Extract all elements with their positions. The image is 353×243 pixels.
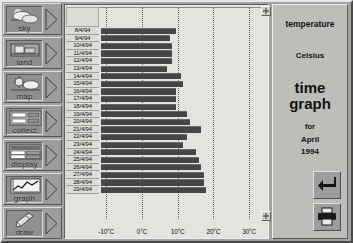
bar-row: [99, 164, 267, 172]
resize-handle-bottom-right[interactable]: [261, 211, 271, 221]
bar-row: [99, 103, 267, 111]
triangle-right-icon[interactable]: [45, 8, 58, 31]
date-label: 27/4/94: [66, 171, 99, 179]
date-label: 9/4/94: [66, 35, 99, 43]
date-label: 10/4/94: [66, 42, 99, 50]
sidebar-item-label: draw: [6, 227, 43, 238]
date-label: 21/4/94: [66, 126, 99, 134]
bar: [101, 81, 183, 87]
bar: [101, 104, 176, 110]
bar: [101, 187, 206, 193]
date-label: 11/4/94: [66, 50, 99, 58]
sidebar-item-label: graph: [6, 193, 43, 204]
date-label: 22/4/94: [66, 133, 99, 141]
chart-panel: 8/4/949/4/9410/4/9411/4/9412/4/9413/4/94…: [64, 4, 269, 239]
sidebar-item-map[interactable]: map: [3, 71, 62, 103]
plot-top-rule: [99, 7, 267, 8]
bar-column: [99, 27, 267, 194]
date-label: 8/4/94: [66, 27, 99, 35]
bar-row: [99, 126, 267, 134]
bar: [101, 58, 172, 64]
bar: [101, 126, 201, 132]
printer-icon[interactable]: [313, 203, 341, 231]
bar: [101, 164, 201, 170]
title-line-2: graph: [273, 96, 347, 112]
bar-row: [99, 111, 267, 119]
bar: [101, 96, 176, 102]
bar-row: [99, 141, 267, 149]
enter-arrow-icon[interactable]: [313, 171, 341, 199]
info-panel: temperature Celsius time graph for April…: [272, 4, 348, 239]
bar: [101, 111, 187, 117]
bar-row: [99, 50, 267, 58]
date-label: 29/4/94: [66, 186, 99, 194]
bar: [101, 179, 205, 185]
month-label: April: [273, 135, 347, 144]
for-label: for: [273, 122, 347, 131]
sidebar-item-sky[interactable]: sky: [3, 3, 62, 35]
sidebar-item-label: display: [6, 159, 43, 170]
bar-row: [99, 133, 267, 141]
date-label: 23/4/94: [66, 141, 99, 149]
sidebar-item-draw[interactable]: draw: [3, 207, 62, 239]
x-axis-tick-label: -10°C: [98, 228, 114, 235]
date-label: 18/4/94: [66, 103, 99, 111]
bar-row: [99, 118, 267, 126]
bar-row: [99, 65, 267, 73]
bar-row: [99, 73, 267, 81]
date-label: 13/4/94: [66, 65, 99, 73]
bar: [101, 66, 167, 72]
bar-row: [99, 42, 267, 50]
app-window: sky land: [0, 0, 353, 243]
date-label: 14/4/94: [66, 73, 99, 81]
bar: [101, 28, 176, 34]
x-axis-tick-label: 30°C: [242, 228, 256, 235]
triangle-right-icon[interactable]: [45, 76, 58, 99]
bar-row: [99, 149, 267, 157]
sidebar-item-label: land: [6, 57, 43, 68]
triangle-right-icon[interactable]: [45, 42, 58, 65]
triangle-right-icon[interactable]: [45, 110, 58, 133]
triangle-right-icon[interactable]: [45, 212, 58, 235]
date-label: 28/4/94: [66, 179, 99, 187]
bar: [101, 157, 199, 163]
date-label: 15/4/94: [66, 80, 99, 88]
bar: [101, 172, 205, 178]
measurement-label: temperature: [273, 19, 347, 29]
date-label: 20/4/94: [66, 118, 99, 126]
date-label: 26/4/94: [66, 164, 99, 172]
left-toolbar: sky land: [3, 3, 62, 240]
date-label: 16/4/94: [66, 88, 99, 96]
sidebar-item-graph[interactable]: graph: [3, 173, 62, 205]
bar-row: [99, 35, 267, 43]
sidebar-item-label: collect: [6, 125, 43, 136]
bar: [101, 119, 190, 125]
triangle-right-icon[interactable]: [45, 178, 58, 201]
x-axis-tick-label: 10°C: [171, 228, 185, 235]
bar: [101, 73, 181, 79]
bar-row: [99, 171, 267, 179]
date-label: 19/4/94: [66, 111, 99, 119]
x-axis-tick-label: 0°C: [137, 228, 147, 235]
date-label: 25/4/94: [66, 156, 99, 164]
bar: [101, 142, 183, 148]
sidebar-item-collect[interactable]: collect: [3, 105, 62, 137]
date-label-column: 8/4/949/4/9410/4/9411/4/9412/4/9413/4/94…: [66, 27, 99, 194]
sidebar-item-label: map: [6, 91, 43, 102]
sidebar-item-land[interactable]: land: [3, 37, 62, 69]
resize-handle-top-right[interactable]: [261, 6, 271, 16]
bar-row: [99, 88, 267, 96]
bar-row: [99, 186, 267, 194]
year-label: 1994: [273, 147, 347, 156]
sidebar-item-display[interactable]: display: [3, 139, 62, 171]
date-label: 12/4/94: [66, 57, 99, 65]
bar: [101, 50, 172, 56]
labels-header: [66, 7, 99, 27]
bar-row: [99, 27, 267, 35]
date-label: 17/4/94: [66, 95, 99, 103]
bar: [101, 149, 196, 155]
bar-row: [99, 57, 267, 65]
sidebar-item-label: sky: [6, 23, 43, 34]
bar: [101, 43, 172, 49]
triangle-right-icon[interactable]: [45, 144, 58, 167]
